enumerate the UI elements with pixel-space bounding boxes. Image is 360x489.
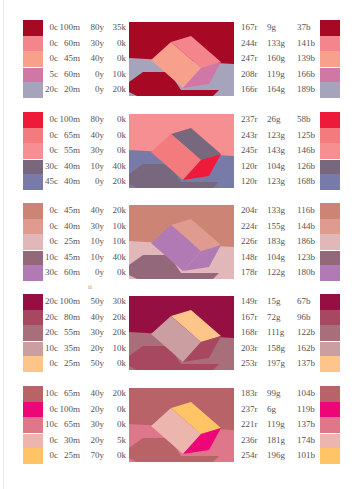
cmyk-values: 0c100m80y35k0c60m30y0k0c45m40y0k5c60m0y1…: [46, 20, 126, 98]
rgb-g-value: 143g: [267, 143, 285, 159]
rgb-row: 203r158g162b: [241, 341, 316, 357]
color-swatch: [23, 159, 43, 175]
cmyk-y-value: 0y: [95, 174, 104, 190]
rgb-values: 183r99g104b237r6g119b221r119g137b236r181…: [241, 386, 316, 464]
cmyk-y-value: 30y: [91, 36, 105, 52]
rgb-g-value: 119g: [267, 417, 285, 433]
cmyk-y-value: 40y: [91, 310, 105, 326]
rgb-g-value: 99g: [267, 386, 281, 402]
cmyk-m-value: 65m: [64, 128, 80, 144]
cmyk-y-value: 40y: [91, 386, 105, 402]
color-swatch: [320, 325, 340, 341]
page-folio: ii: [88, 283, 92, 291]
cmyk-c-value: 0c: [50, 128, 59, 144]
cmyk-row: 20c100m50y30k: [46, 294, 126, 310]
rgb-g-value: 181g: [267, 433, 285, 449]
right-swatch-column: [320, 20, 340, 98]
rgb-values: 237r26g58b243r123g125b245r143g146b120r10…: [241, 112, 316, 190]
cmyk-k-value: 20k: [113, 325, 127, 341]
rgb-g-value: 196g: [267, 448, 285, 464]
cube-scene-illustration: [129, 205, 234, 279]
cmyk-m-value: 35m: [64, 341, 80, 357]
color-combo-section: 10c65m40y20k0c100m20y0k10c65m30y0k0c30m2…: [0, 386, 360, 464]
rgb-g-value: 104g: [267, 250, 285, 266]
right-swatch-column: [320, 294, 340, 372]
rgb-row: 183r99g104b: [241, 386, 316, 402]
cmyk-row: 0c100m80y35k: [46, 20, 126, 36]
color-swatch: [23, 36, 43, 52]
rgb-b-value: 166b: [297, 67, 315, 83]
color-swatch: [23, 67, 43, 83]
cmyk-y-value: 30y: [91, 325, 105, 341]
rgb-row: 237r6g119b: [241, 402, 316, 418]
cmyk-row: 0c40m30y10k: [46, 219, 126, 235]
cmyk-y-value: 20y: [91, 433, 105, 449]
cmyk-m-value: 60m: [64, 36, 80, 52]
rgb-r-value: 203r: [241, 341, 258, 357]
left-swatch-column: [23, 203, 43, 281]
cmyk-m-value: 80m: [64, 310, 80, 326]
rgb-b-value: 123b: [297, 250, 315, 266]
rgb-r-value: 149r: [241, 294, 258, 310]
cmyk-row: 0c65m40y0k: [46, 128, 126, 144]
cmyk-c-value: 20c: [45, 325, 58, 341]
cmyk-row: 0c25m10y10k: [46, 234, 126, 250]
cmyk-k-value: 20k: [113, 203, 127, 219]
color-combo-section: 0c45m40y20k0c40m30y10k0c25m10y10k10c45m1…: [0, 203, 360, 281]
color-swatch: [23, 82, 43, 98]
color-swatch: [320, 174, 340, 190]
rgb-b-value: 186b: [297, 234, 315, 250]
color-swatch: [23, 448, 43, 464]
rgb-g-value: 197g: [267, 356, 285, 372]
cmyk-m-value: 40m: [64, 159, 80, 175]
cmyk-k-value: 0k: [117, 128, 126, 144]
color-swatch: [320, 234, 340, 250]
color-swatch: [320, 82, 340, 98]
cmyk-y-value: 30y: [91, 417, 105, 433]
cmyk-c-value: 10c: [45, 386, 58, 402]
cmyk-values: 10c65m40y20k0c100m20y0k10c65m30y0k0c30m2…: [46, 386, 126, 464]
color-swatch: [320, 341, 340, 357]
color-combo-section: 20c100m50y30k20c80m40y20k20c55m30y20k10c…: [0, 294, 360, 372]
color-swatch: [320, 386, 340, 402]
cmyk-c-value: 45c: [45, 174, 58, 190]
color-swatch: [23, 51, 43, 67]
rgb-g-value: 133g: [267, 36, 285, 52]
color-swatch: [320, 128, 340, 144]
color-swatch: [23, 310, 43, 326]
cmyk-y-value: 30y: [91, 219, 105, 235]
rgb-g-value: 133g: [267, 203, 285, 219]
rgb-b-value: 139b: [297, 51, 315, 67]
cmyk-c-value: 20c: [45, 310, 58, 326]
rgb-row: 208r119g166b: [241, 67, 316, 83]
rgb-row: 247r160g139b: [241, 51, 316, 67]
rgb-g-value: 26g: [267, 112, 281, 128]
cmyk-y-value: 40y: [91, 128, 105, 144]
cmyk-m-value: 55m: [64, 143, 80, 159]
cmyk-y-value: 0y: [95, 67, 104, 83]
cmyk-k-value: 20k: [113, 174, 127, 190]
color-swatch: [320, 67, 340, 83]
color-combo-section: 0c100m80y35k0c60m30y0k0c45m40y0k5c60m0y1…: [0, 20, 360, 98]
rgb-b-value: 119b: [297, 402, 315, 418]
cmyk-k-value: 0k: [117, 36, 126, 52]
cmyk-k-value: 10k: [113, 234, 127, 250]
rgb-r-value: 120r: [241, 174, 258, 190]
cmyk-c-value: 10c: [45, 417, 58, 433]
cmyk-y-value: 70y: [91, 448, 105, 464]
color-swatch: [320, 294, 340, 310]
rgb-g-value: 9g: [267, 20, 276, 36]
rgb-r-value: 120r: [241, 159, 258, 175]
rgb-g-value: 104g: [267, 159, 285, 175]
cmyk-m-value: 100m: [59, 20, 80, 36]
cmyk-k-value: 10k: [113, 341, 127, 357]
rgb-r-value: 237r: [241, 112, 258, 128]
cmyk-m-value: 25m: [64, 234, 80, 250]
cmyk-y-value: 0y: [95, 265, 104, 281]
color-swatch: [23, 325, 43, 341]
rgb-b-value: 144b: [297, 219, 315, 235]
rgb-g-value: 6g: [267, 402, 276, 418]
cmyk-c-value: 0c: [50, 448, 59, 464]
right-swatch-column: [320, 112, 340, 190]
cmyk-m-value: 65m: [64, 417, 80, 433]
